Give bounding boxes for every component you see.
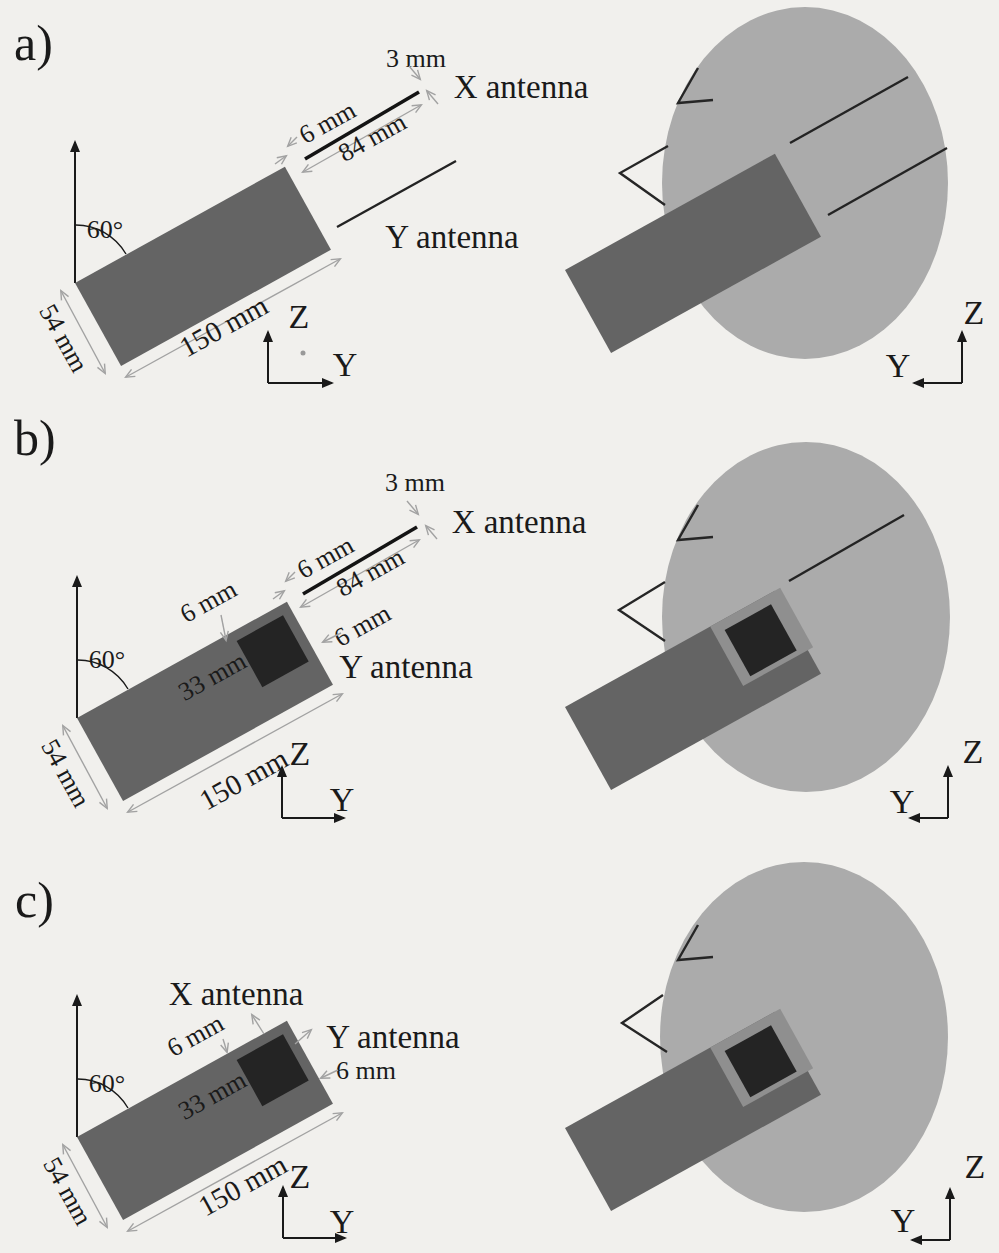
tip-gap-arrow-2: [275, 156, 286, 164]
loop-offset-arrow: [221, 615, 226, 640]
x-antenna-label: X antenna: [169, 976, 304, 1012]
z-axis-label: Z: [290, 1158, 311, 1195]
z-axis-label: Z: [964, 294, 985, 331]
axes-left-a: Z Y: [268, 298, 357, 383]
panel-c-right: Z Y: [565, 862, 985, 1240]
end-offset-arrow-2: [426, 526, 437, 539]
x-axis-out-of-page-dot: [301, 351, 306, 356]
angle-label: 60°: [87, 215, 123, 244]
axes-left-c: Z Y: [283, 1158, 354, 1240]
end-offset-arrow-1: [407, 501, 418, 514]
loop-offset-label: 6 mm: [162, 1008, 228, 1062]
x-antenna-pointer-arrow: [252, 1015, 264, 1034]
y-antenna-label: Y antenna: [385, 219, 519, 255]
axes-left-b: Z Y: [282, 735, 354, 818]
panel-a-left: 60° 54 mm 150 mm 84 mm 6 mm 3 mm X anten…: [33, 44, 588, 383]
y-axis-label: Y: [890, 783, 915, 820]
panel-a-label: a): [14, 15, 53, 71]
panel-a: a) 60° 54 mm 150 mm 84 mm 6 mm 3 mm X a: [14, 7, 984, 384]
loop-side-label: 6 mm: [336, 1056, 396, 1085]
y-antenna-pointer-arrow: [295, 1030, 311, 1044]
panel-a-right: Z Y: [565, 7, 984, 384]
z-axis-label: Z: [289, 298, 310, 335]
end-offset-arrow-2: [427, 91, 438, 104]
panel-b-label: b): [14, 410, 56, 466]
axes-right-b: Z Y: [890, 733, 984, 820]
probe-width-label: 54 mm: [35, 734, 96, 812]
y-axis-label: Y: [330, 781, 355, 818]
end-offset-label: 3 mm: [385, 468, 445, 497]
y-axis-label: Y: [333, 346, 358, 383]
x-antenna-label: X antenna: [454, 69, 589, 105]
loop-side-label: 6 mm: [329, 598, 395, 652]
z-axis-label: Z: [290, 735, 311, 772]
z-axis-label: Z: [965, 1148, 986, 1185]
y-axis-label: Y: [891, 1202, 916, 1239]
y-axis-label: Y: [330, 1203, 355, 1240]
panel-b-left: 60° 54 mm 150 mm 84 mm 6 mm 3 mm X anten…: [35, 468, 586, 818]
y-axis-label: Y: [886, 347, 911, 384]
x-antenna-label: X antenna: [452, 504, 587, 540]
probe-width-label: 54 mm: [37, 1152, 98, 1230]
body-ellipse: [662, 442, 950, 792]
y-antenna-label: Y antenna: [326, 1019, 460, 1055]
angle-label: 60°: [89, 645, 125, 674]
body-contour-mark-2: [619, 582, 665, 641]
panel-c-left: 60° 54 mm 150 mm X antenna Y antenna 6 m…: [37, 976, 460, 1240]
tip-gap-arrow-2: [273, 591, 284, 599]
end-offset-label: 3 mm: [386, 44, 446, 73]
panel-b-right: Z Y: [565, 442, 983, 820]
panel-c-label: c): [15, 872, 54, 928]
angle-label: 60°: [89, 1069, 125, 1098]
z-axis-label: Z: [963, 733, 984, 770]
tip-gap-arrow-1: [288, 137, 297, 146]
panel-b: b) 60° 54 mm 150 mm 84 mm 6 mm 3 mm X: [14, 410, 983, 820]
loop-offset-arrow: [223, 1039, 227, 1052]
y-antenna-line: [337, 161, 456, 227]
body-ellipse: [662, 7, 948, 359]
tip-gap-arrow-1: [286, 572, 295, 581]
panel-c: c) 60° 54 mm 150 mm X antenna Y antenna …: [15, 862, 985, 1240]
probe-width-label: 54 mm: [33, 299, 94, 377]
figure-canvas: a) 60° 54 mm 150 mm 84 mm 6 mm 3 mm X a: [0, 0, 999, 1253]
loop-offset-label: 6 mm: [175, 574, 241, 628]
y-antenna-label: Y antenna: [339, 649, 473, 685]
body-contour-mark-2: [620, 146, 668, 205]
